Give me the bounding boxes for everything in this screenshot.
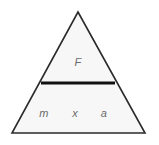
- formula-triangle-figure: F m x a: [0, 0, 159, 145]
- triangle-diagram: [0, 0, 159, 145]
- denominator-label-mass: m: [39, 108, 48, 119]
- triangle-outline: [12, 12, 145, 133]
- denominator-label-acceleration: a: [101, 108, 107, 119]
- denominator-label-multiply: x: [72, 108, 78, 119]
- numerator-label: F: [75, 57, 82, 68]
